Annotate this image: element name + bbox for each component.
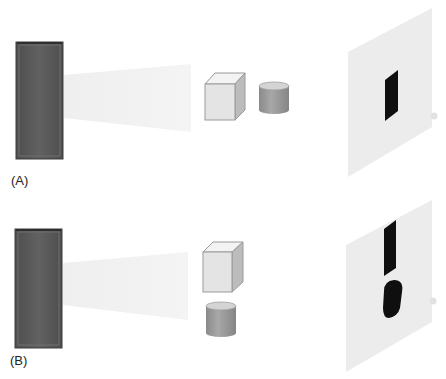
screen-b <box>346 200 437 372</box>
shadow-rect-b <box>384 220 396 276</box>
screen-a <box>348 8 438 177</box>
light-source-a <box>16 42 63 159</box>
light-beam-a <box>64 64 191 132</box>
cylinder-b <box>206 302 236 337</box>
panel-label-a: (A) <box>11 173 28 188</box>
cylinder-a <box>259 82 289 114</box>
panel-a <box>16 8 438 177</box>
cube-a <box>205 73 245 120</box>
panel-b <box>15 200 437 372</box>
panel-label-b: (B) <box>10 353 27 368</box>
light-beam-b <box>63 252 188 320</box>
light-source-b <box>15 229 62 348</box>
cube-b <box>203 242 243 292</box>
diagram-canvas <box>0 0 446 379</box>
